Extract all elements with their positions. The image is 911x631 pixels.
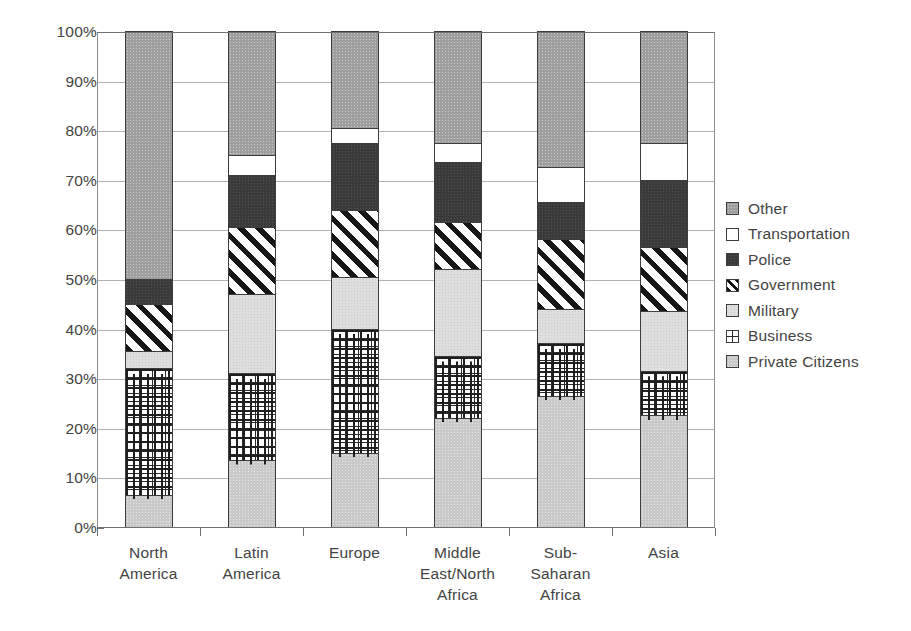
gridline [97, 82, 715, 83]
legend-label: Transportation [748, 225, 850, 243]
x-category-label: Sub- Saharan Africa [501, 542, 620, 605]
bar-segment-police[interactable] [331, 143, 379, 211]
y-tick-label: 60% [35, 221, 97, 239]
bar-segment-police[interactable] [537, 202, 585, 240]
legend-label: Government [748, 276, 835, 294]
bar-segment-private-citizens[interactable] [537, 396, 585, 528]
x-tick-mark [406, 528, 407, 536]
legend-swatch-icon [726, 202, 739, 215]
y-tick-label: 90% [35, 73, 97, 91]
gridline [97, 478, 715, 479]
bar-segment-other[interactable] [537, 31, 585, 168]
legend-label: Military [748, 302, 799, 320]
bar-segment-military[interactable] [434, 269, 482, 357]
bar-segment-business[interactable] [125, 368, 173, 495]
x-category-label: Asia [604, 542, 723, 563]
plot-area [97, 32, 715, 528]
bar-segment-military[interactable] [640, 311, 688, 372]
x-category-label: Middle East/North Africa [398, 542, 517, 605]
gridline [97, 280, 715, 281]
bar-europe[interactable] [331, 32, 379, 528]
legend-item-transportation[interactable]: Transportation [726, 222, 906, 248]
legend: OtherTransportationPoliceGovernmentMilit… [726, 196, 906, 375]
x-tick-mark [200, 528, 201, 536]
x-category-label: Europe [295, 542, 414, 563]
bar-segment-other[interactable] [331, 31, 379, 129]
bar-segment-police[interactable] [228, 175, 276, 228]
y-tick-label: 100% [35, 23, 97, 41]
legend-item-other[interactable]: Other [726, 196, 906, 222]
bar-segment-business[interactable] [537, 343, 585, 396]
x-tick-mark [303, 528, 304, 536]
gridline [97, 379, 715, 380]
bar-segment-private-citizens[interactable] [125, 495, 173, 528]
bar-segment-other[interactable] [640, 31, 688, 144]
legend-label: Other [748, 200, 788, 218]
bar-segment-transportation[interactable] [537, 167, 585, 203]
legend-swatch-icon [726, 279, 739, 292]
y-tick-label: 0% [35, 519, 97, 537]
bar-segment-business[interactable] [434, 356, 482, 419]
gridline [97, 230, 715, 231]
bar-segment-other[interactable] [434, 31, 482, 144]
bar-segment-private-citizens[interactable] [640, 415, 688, 528]
bar-segment-other[interactable] [228, 31, 276, 156]
bar-segment-government[interactable] [640, 247, 688, 312]
bar-segment-transportation[interactable] [331, 128, 379, 144]
x-tick-mark [715, 528, 716, 536]
x-axis: North AmericaLatin AmericaEuropeMiddle E… [97, 528, 715, 628]
bar-middle-east-north-africa[interactable] [434, 32, 482, 528]
bar-segment-government[interactable] [125, 304, 173, 352]
legend-label: Private Citizens [748, 353, 859, 371]
y-tick-label: 80% [35, 122, 97, 140]
legend-swatch-icon [726, 304, 739, 317]
y-axis: 0%10%20%30%40%50%60%70%80%90%100% [0, 32, 97, 528]
bar-segment-transportation[interactable] [640, 143, 688, 181]
bar-segment-business[interactable] [228, 373, 276, 461]
bar-sub-saharan-africa[interactable] [537, 32, 585, 528]
y-tick-label: 20% [35, 420, 97, 438]
bar-segment-military[interactable] [537, 309, 585, 345]
bar-segment-government[interactable] [331, 210, 379, 278]
bar-segment-police[interactable] [640, 180, 688, 248]
gridline [97, 131, 715, 132]
bar-segment-military[interactable] [331, 277, 379, 330]
brick-pattern-offset [442, 361, 488, 422]
bar-segment-business[interactable] [640, 371, 688, 417]
bar-segment-private-citizens[interactable] [228, 460, 276, 528]
x-category-label: North America [89, 542, 208, 584]
bar-north-america[interactable] [125, 32, 173, 528]
gridline [97, 181, 715, 182]
legend-swatch-icon [726, 355, 739, 368]
bar-segment-government[interactable] [537, 239, 585, 309]
legend-item-government[interactable]: Government [726, 273, 906, 299]
brick-pattern-offset [339, 334, 385, 457]
bar-segment-military[interactable] [125, 351, 173, 369]
brick-pattern-offset [545, 349, 591, 400]
bar-segment-police[interactable] [125, 279, 173, 305]
bar-segment-transportation[interactable] [228, 155, 276, 176]
bar-segment-private-citizens[interactable] [434, 418, 482, 528]
x-tick-mark [612, 528, 613, 536]
bar-segment-government[interactable] [434, 222, 482, 270]
legend-item-business[interactable]: Business [726, 324, 906, 350]
gridline [97, 330, 715, 331]
legend-swatch-icon [726, 330, 739, 343]
bar-segment-private-citizens[interactable] [331, 453, 379, 528]
legend-item-police[interactable]: Police [726, 247, 906, 273]
bar-segment-government[interactable] [228, 227, 276, 295]
bar-segment-other[interactable] [125, 31, 173, 280]
bar-segment-military[interactable] [228, 294, 276, 374]
bar-latin-america[interactable] [228, 32, 276, 528]
gridline [97, 429, 715, 430]
legend-item-private-citizens[interactable]: Private Citizens [726, 349, 906, 375]
x-tick-mark [509, 528, 510, 536]
bar-segment-police[interactable] [434, 162, 482, 223]
x-tick-mark [97, 528, 98, 536]
legend-item-military[interactable]: Military [726, 298, 906, 324]
bar-asia[interactable] [640, 32, 688, 528]
bar-segment-business[interactable] [331, 329, 379, 454]
brick-pattern-offset [236, 379, 282, 465]
bar-segment-transportation[interactable] [434, 143, 482, 164]
stacked-bar-chart: 0%10%20%30%40%50%60%70%80%90%100% North … [0, 0, 911, 631]
